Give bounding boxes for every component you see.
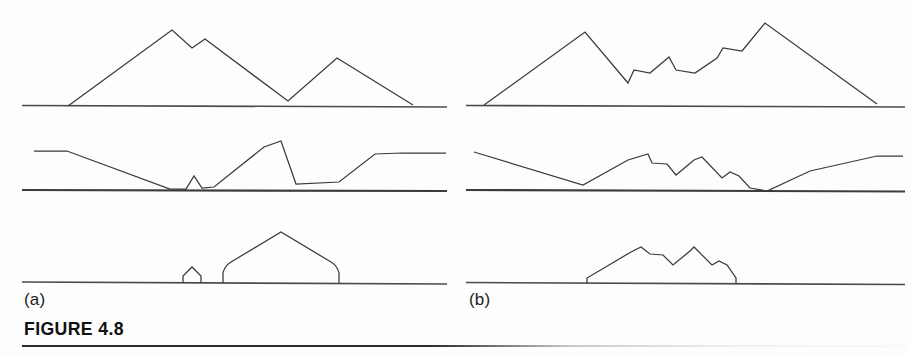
signal-top-left — [68, 30, 413, 106]
axis-middle-left — [22, 190, 447, 191]
axis-bottom-left — [22, 282, 447, 284]
panel-label-a: (a) — [24, 290, 45, 310]
axis-top-right — [466, 106, 905, 108]
axis-middle-right — [466, 190, 905, 192]
waveform-canvas — [0, 0, 910, 355]
signal-bottom-right — [587, 247, 736, 283]
signal-middle-right — [474, 152, 903, 191]
caption-divider — [22, 345, 908, 347]
signal-top-right — [484, 23, 877, 105]
axis-bottom-right — [466, 283, 905, 285]
panel-label-b: (b) — [469, 290, 490, 310]
figure-caption: FIGURE 4.8 — [24, 318, 124, 340]
signal-bottom-left-dome — [223, 232, 339, 283]
signal-bottom-left-bump — [183, 267, 201, 283]
figure-page: (a) (b) FIGURE 4.8 — [0, 0, 910, 355]
axis-top-left — [22, 106, 447, 108]
signal-middle-left — [34, 141, 446, 189]
